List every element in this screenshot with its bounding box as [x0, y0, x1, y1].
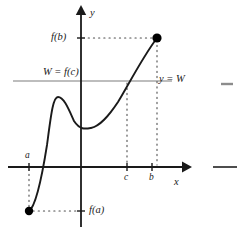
- label-y-axis: y: [90, 8, 95, 19]
- function-curve: [29, 38, 157, 211]
- label-a: a: [25, 151, 30, 161]
- label-b: b: [149, 173, 154, 183]
- x-axis-arrowhead: [182, 162, 192, 173]
- ivt-graph-figure: f(b) f(a) W = f(c) y = W a c b x y: [0, 0, 237, 227]
- graph-canvas: [0, 0, 237, 227]
- endpoint-dot-b: [152, 33, 161, 42]
- y-axis-arrowhead: [76, 5, 86, 15]
- endpoint-dot-a: [25, 207, 33, 215]
- label-y-equals-w: y = W: [159, 74, 185, 85]
- label-c: c: [124, 173, 128, 183]
- label-f-of-b: f(b): [51, 32, 66, 43]
- label-x-axis: x: [174, 177, 179, 188]
- label-f-of-a: f(a): [89, 205, 104, 216]
- label-w-equals-f-of-c: W = f(c): [43, 67, 79, 78]
